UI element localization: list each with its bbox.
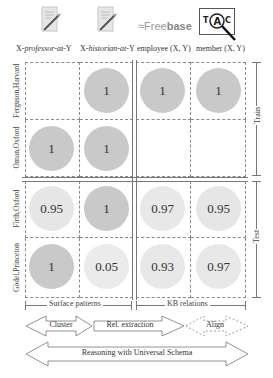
score-circle: 1 <box>140 68 185 113</box>
score-circle: 1 <box>29 126 74 171</box>
row-label-godel: Gödel,Princeton <box>12 230 21 306</box>
document-pen-icon <box>40 6 62 34</box>
svg-text:A: A <box>214 16 222 27</box>
score-circle: 1 <box>84 126 129 171</box>
train-label: Train <box>253 106 262 125</box>
bracket-tick <box>25 301 26 310</box>
bracket-tick <box>252 175 261 176</box>
score-circle: 1 <box>196 68 241 113</box>
score-circle: 0.97 <box>140 186 185 231</box>
bracket-tick <box>136 301 137 310</box>
bracket-tick <box>245 301 246 310</box>
align-label: Align <box>204 320 226 329</box>
kb-relations-label: KB relations <box>165 299 210 308</box>
cluster-label: Cluster <box>46 320 76 329</box>
score-circle: 0.95 <box>29 186 74 231</box>
score-circle: 1 <box>84 186 129 231</box>
svg-text:C: C <box>225 16 231 25</box>
column-label-professor: X-professor-at-Y <box>16 44 72 53</box>
bracket-tick <box>252 297 261 298</box>
column-label-member: member (X, Y) <box>196 44 245 53</box>
matrix-cell <box>136 120 191 177</box>
freebase-logo: ≈Freebase <box>138 20 192 32</box>
universal-schema-label: Reasoning with Universal Schema <box>48 348 226 357</box>
score-circle: 1 <box>29 244 74 289</box>
bracket-tick <box>252 181 261 182</box>
tac-magnifier-icon: T A C <box>199 8 239 44</box>
bracket-tick <box>131 301 132 310</box>
surface-patterns-label: Surface patterns <box>47 299 103 308</box>
column-label-historian: X-historian-at-Y <box>80 44 135 53</box>
matrix-cell <box>191 120 246 177</box>
test-label: Test <box>252 229 261 244</box>
score-circle: 0.93 <box>140 244 185 289</box>
horizontal-separator <box>22 177 248 182</box>
score-circle: 1 <box>84 68 129 113</box>
score-circle: 0.97 <box>196 244 241 289</box>
score-circle: 0.05 <box>84 244 129 289</box>
rel-extraction-label: Rel. extraction <box>100 320 160 329</box>
bracket-tick <box>252 62 261 63</box>
document-pen-icon <box>96 6 118 34</box>
column-label-employee: employee (X, Y) <box>137 44 191 53</box>
matrix-cell <box>25 62 80 120</box>
score-circle: 0.95 <box>196 186 241 231</box>
svg-text:T: T <box>203 16 209 25</box>
